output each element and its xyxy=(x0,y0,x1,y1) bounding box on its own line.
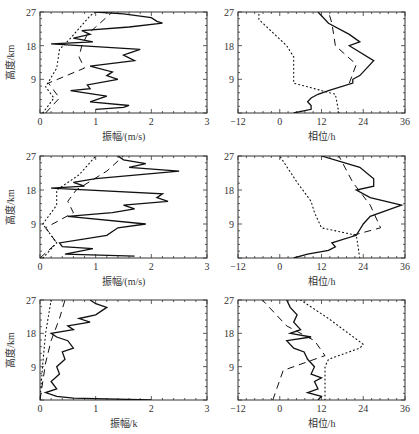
panel-row1-right: −12012243691827相位/h xyxy=(224,7,410,142)
series-solid xyxy=(287,300,322,400)
y-tick-label: 27 xyxy=(26,151,36,162)
series-solid xyxy=(294,12,374,113)
y-tick-label: 9 xyxy=(229,362,234,373)
series-dashed xyxy=(40,156,124,258)
x-axis-label: 振幅/(m/s) xyxy=(102,130,146,143)
y-tick-label: 27 xyxy=(26,7,36,18)
x-tick-label: 3 xyxy=(205,403,210,414)
x-tick-label: 36 xyxy=(400,261,410,272)
x-axis-label: 振幅/k xyxy=(110,417,138,429)
x-axis-label: 相位/h xyxy=(308,417,336,429)
y-tick-label: 18 xyxy=(224,41,234,52)
x-tick-label: 0 xyxy=(277,403,282,414)
x-tick-label: 1 xyxy=(93,403,98,414)
y-tick-label: 18 xyxy=(26,41,36,52)
x-tick-label: 3 xyxy=(205,116,210,127)
panel-row2-left: 012391827振幅/(m/s)高度/km xyxy=(4,151,210,288)
x-tick-label: 24 xyxy=(358,261,368,272)
x-tick-label: −12 xyxy=(230,116,246,127)
x-tick-label: 0 xyxy=(277,116,282,127)
x-tick-label: 24 xyxy=(358,116,368,127)
y-tick-label: 9 xyxy=(229,219,234,230)
x-tick-label: 12 xyxy=(317,261,327,272)
x-tick-label: 24 xyxy=(358,403,368,414)
y-tick-label: 18 xyxy=(26,185,36,196)
x-tick-label: 0 xyxy=(38,403,43,414)
series-solid xyxy=(51,12,162,109)
y-tick-label: 9 xyxy=(31,219,36,230)
panel-row3-right: −12012243691827相位/h xyxy=(224,295,410,429)
x-tick-label: 1 xyxy=(93,261,98,272)
y-axis-label: 高度/km xyxy=(4,45,16,81)
panel-row1-left: 012391827振幅/(m/s)高度/km xyxy=(4,7,210,143)
y-tick-label: 18 xyxy=(26,328,36,339)
y-tick-label: 27 xyxy=(224,7,234,18)
plot-frame xyxy=(238,156,405,258)
x-tick-label: 12 xyxy=(317,403,327,414)
series-dotted xyxy=(43,12,96,113)
plot-frame xyxy=(40,156,207,258)
series-dashed xyxy=(40,300,65,400)
x-tick-label: 36 xyxy=(400,116,410,127)
y-tick-label: 9 xyxy=(229,74,234,85)
x-tick-label: 36 xyxy=(400,403,410,414)
x-tick-label: 0 xyxy=(277,261,282,272)
x-tick-label: −12 xyxy=(230,403,246,414)
y-tick-label: 27 xyxy=(224,151,234,162)
x-tick-label: 2 xyxy=(149,403,154,414)
x-tick-label: −12 xyxy=(230,261,246,272)
series-solid xyxy=(51,156,179,256)
panel-row3-left: 012391827振幅/k高度/km xyxy=(4,295,210,429)
plot-frame xyxy=(40,300,207,400)
series-solid xyxy=(46,300,152,400)
plot-frame xyxy=(238,300,405,400)
figure-six-panels: 012391827振幅/(m/s)高度/km−12012243691827相位/… xyxy=(0,0,419,434)
y-tick-label: 27 xyxy=(26,295,36,306)
series-dotted xyxy=(43,156,96,258)
x-axis-label: 相位/h xyxy=(308,275,336,287)
x-tick-label: 2 xyxy=(149,116,154,127)
series-dotted xyxy=(40,300,51,400)
y-tick-label: 18 xyxy=(224,185,234,196)
x-tick-label: 2 xyxy=(149,261,154,272)
y-tick-label: 27 xyxy=(224,295,234,306)
x-tick-label: 0 xyxy=(38,116,43,127)
y-tick-label: 9 xyxy=(31,362,36,373)
series-dotted xyxy=(280,156,360,258)
y-axis-label: 高度/km xyxy=(4,189,16,225)
x-tick-label: 3 xyxy=(205,261,210,272)
x-tick-label: 0 xyxy=(38,261,43,272)
series-solid xyxy=(294,156,402,258)
x-axis-label: 振幅/(m/s) xyxy=(102,275,146,288)
x-tick-label: 12 xyxy=(317,116,327,127)
series-dotted xyxy=(259,12,339,113)
y-axis-label: 高度/km xyxy=(4,332,16,368)
y-tick-label: 9 xyxy=(31,74,36,85)
panel-row2-right: −12012243691827相位/h xyxy=(224,151,410,287)
series-dotted xyxy=(301,300,364,400)
plot-frame xyxy=(238,12,405,113)
y-tick-label: 18 xyxy=(224,328,234,339)
x-axis-label: 相位/h xyxy=(308,130,336,142)
x-tick-label: 1 xyxy=(93,116,98,127)
